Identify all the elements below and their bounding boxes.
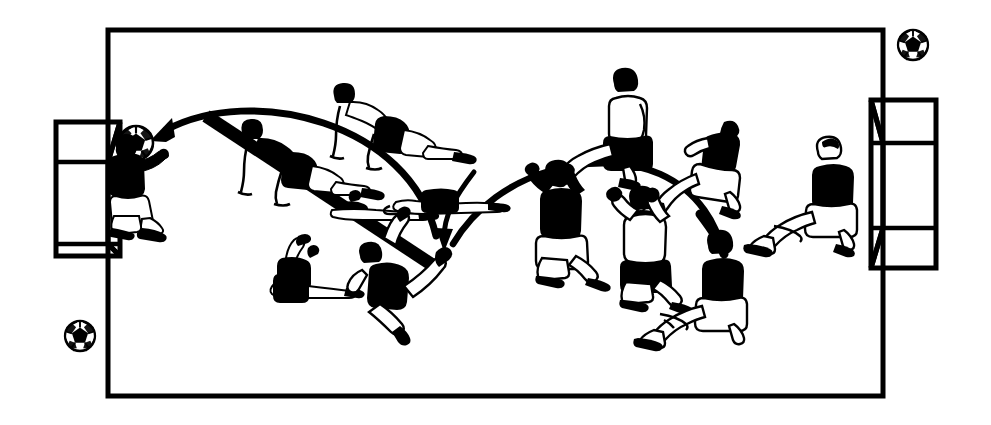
player-kneeling-guard [525,160,611,292]
player-seated-right [743,137,857,258]
player-plank-2 [330,83,477,170]
player-supine-bottom [273,273,309,303]
trajectory-arrowhead-left [150,118,175,142]
player-kneeling-guard-2 [606,186,695,316]
soccer-ball-top-right [898,30,928,60]
illustration-canvas: Soccer training drill diagram Rectangula… [0,0,991,425]
soccer-drill-illustration [0,0,991,425]
soccer-ball-bottom-left [65,321,95,351]
